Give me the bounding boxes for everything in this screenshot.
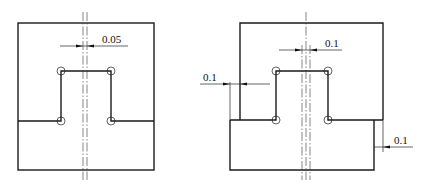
right-figure: 0.1 0.1 0.1: [200, 12, 413, 180]
right-left-dimension-label: 0.1: [203, 71, 217, 83]
right-top-arrow-left: [295, 49, 302, 52]
right-top-arrow-right: [310, 49, 317, 52]
right-notch-outline: [230, 71, 383, 120]
right-left-arrow-a: [223, 83, 230, 86]
right-right-arrow: [383, 146, 390, 149]
left-dim-arrow-left: [76, 45, 83, 48]
left-notch-outline: [18, 71, 154, 121]
left-dimension-label: 0.05: [102, 33, 122, 45]
left-dim-arrow-right: [87, 45, 94, 48]
left-figure: 0.05: [18, 12, 154, 180]
right-top-dimension-label: 0.1: [325, 37, 339, 49]
right-right-dimension-label: 0.1: [394, 134, 408, 146]
technical-drawing: 0.05 0.1 0.1 0.1: [0, 0, 425, 191]
left-outer-rectangle: [18, 23, 154, 170]
right-left-arrow-b: [240, 83, 247, 86]
